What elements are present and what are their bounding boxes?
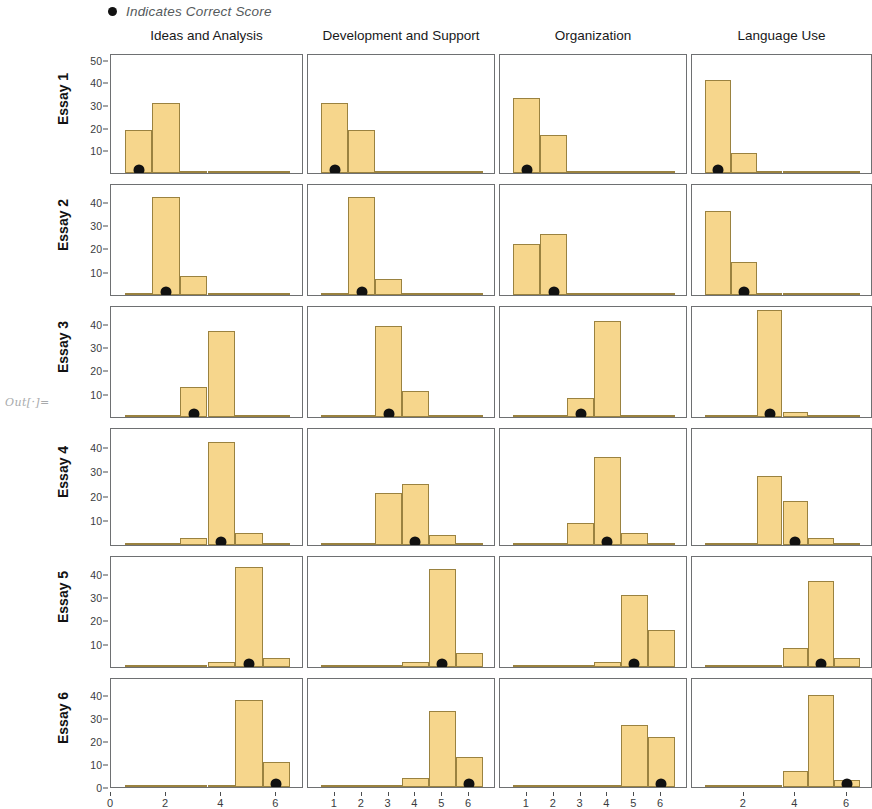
x-tick-label: 6 (465, 796, 471, 809)
histogram-bar (731, 543, 757, 545)
histogram-panel (691, 556, 872, 668)
histogram-bar (621, 725, 648, 787)
correct-score-marker (521, 165, 532, 175)
x-tick-label: 3 (385, 796, 391, 809)
histogram-bar (375, 785, 402, 787)
histogram-bar (456, 653, 483, 667)
histogram-bar (263, 543, 291, 545)
histogram-bar (321, 543, 348, 545)
histogram-panel (691, 306, 872, 418)
x-tick-label: 5 (438, 796, 444, 809)
y-tick-mark (103, 765, 108, 766)
x-tick-label: 4 (603, 796, 609, 809)
column-header-1: Ideas and Analysis (110, 26, 303, 46)
histogram-bar (567, 665, 594, 667)
histogram-bar (125, 785, 153, 787)
legend-label: Indicates Correct Score (126, 4, 272, 19)
histogram-bar (402, 391, 429, 417)
histogram-panel (691, 184, 872, 296)
histogram-panel (307, 54, 495, 174)
histogram-bar (705, 415, 731, 417)
x-tick-label: 2 (550, 796, 556, 809)
histogram-bar (567, 523, 594, 545)
histogram-bar (321, 665, 348, 667)
y-tick-label: 30 (90, 343, 102, 354)
histogram-panel (307, 428, 495, 546)
y-tick-label: 10 (90, 516, 102, 527)
row-label-1: Essay 1 (52, 54, 74, 174)
correct-score-marker (329, 165, 340, 175)
histogram-bar (263, 658, 291, 667)
facet-row-5: Essay 510203040 (0, 556, 872, 668)
y-tick-mark (103, 644, 108, 645)
histogram-bar (375, 326, 402, 417)
y-axis-row-4: 10203040 (78, 428, 108, 546)
histogram-panel (110, 184, 303, 296)
histogram-bar (152, 197, 180, 295)
histogram-bar (456, 543, 483, 545)
histogram-bar (567, 293, 594, 295)
histogram-bar (429, 171, 456, 173)
y-tick-mark (103, 202, 108, 203)
histogram-bar (594, 293, 621, 295)
histogram-bar (705, 665, 731, 667)
y-tick-label: 0 (96, 783, 102, 794)
y-tick-mark (103, 60, 108, 61)
column-headers: Ideas and AnalysisDevelopment and Suppor… (0, 26, 872, 48)
correct-score-marker (842, 779, 853, 789)
x-tick-label: 1 (331, 796, 337, 809)
histogram-bar (208, 785, 236, 787)
histogram-bar (731, 785, 757, 787)
x-tick-label: 0 (107, 796, 113, 809)
histogram-bar (402, 778, 429, 787)
histogram-bar (540, 543, 567, 545)
histogram-bar (705, 211, 731, 295)
histogram-bar (783, 648, 809, 667)
histogram-bar (783, 293, 809, 295)
y-tick-label: 40 (90, 442, 102, 453)
histogram-bar (513, 244, 540, 295)
histogram-bar (648, 415, 675, 417)
histogram-bar (180, 538, 208, 545)
histogram-bar (152, 543, 180, 545)
histogram-panel (691, 54, 872, 174)
histogram-bar (834, 415, 860, 417)
histogram-bar (321, 415, 348, 417)
y-tick-mark (103, 272, 108, 273)
y-tick-label: 40 (90, 569, 102, 580)
histogram-bar (263, 415, 291, 417)
histogram-bar (429, 293, 456, 295)
y-axis-row-1: 1020304050 (78, 54, 108, 174)
correct-score-marker (133, 165, 144, 175)
histogram-bar (235, 415, 263, 417)
histogram-bar (375, 279, 402, 295)
correct-score-marker (816, 659, 827, 669)
y-tick-mark (103, 83, 108, 84)
y-tick-mark (103, 128, 108, 129)
histogram-bar (731, 665, 757, 667)
histogram-bar (757, 785, 783, 787)
histogram-bar (429, 415, 456, 417)
facet-row-6: Essay 60102030400246123456123456246 (0, 678, 872, 788)
y-tick-mark (103, 447, 108, 448)
y-tick-mark (103, 521, 108, 522)
correct-score-marker (575, 409, 586, 419)
x-axis-col-4: 246 (691, 796, 872, 809)
y-axis-row-5: 10203040 (78, 556, 108, 668)
histogram-bar (567, 171, 594, 173)
row-label-2: Essay 2 (52, 184, 74, 296)
y-tick-label: 30 (90, 101, 102, 112)
histogram-bar (540, 785, 567, 787)
correct-score-marker (548, 287, 559, 297)
histogram-bar (808, 695, 834, 787)
histogram-panel (499, 556, 687, 668)
x-axis-col-2: 123456 (307, 796, 495, 809)
histogram-bar (808, 415, 834, 417)
histogram-bar (648, 171, 675, 173)
x-tick-label: 3 (577, 796, 583, 809)
histogram-bar (208, 662, 236, 667)
y-tick-label: 10 (90, 389, 102, 400)
histogram-bar (208, 293, 236, 295)
correct-score-marker (602, 537, 613, 547)
histogram-bar (180, 276, 208, 295)
